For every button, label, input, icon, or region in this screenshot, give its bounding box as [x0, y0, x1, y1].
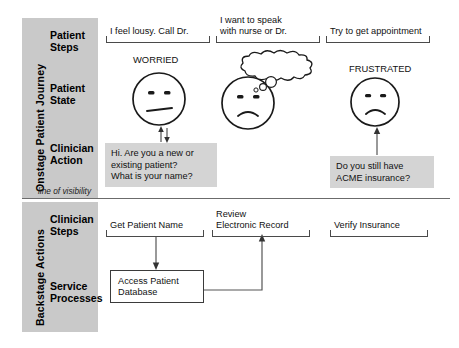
patient-step-label-3: Try to get appointment [330, 26, 422, 37]
row-label-service-processes: Service Processes [50, 281, 103, 304]
patient-step-label-1: I feel lousy. Call Dr. [110, 26, 188, 37]
clinician-step-label-2: Review Electronic Record [216, 209, 289, 230]
patient-step-bracket-2 [216, 36, 320, 43]
row-label-clinician-steps: Clinician Steps [50, 214, 94, 237]
connector-arrow-clinician-patient-3 [374, 127, 380, 155]
clinician-step-bracket-1 [106, 230, 204, 237]
patient-state-caption-frustrated: FRUSTRATED [349, 63, 411, 74]
patient-face-worried-icon [133, 73, 185, 125]
patient-step-label-2: I want to speak with nurse or Dr. [220, 15, 287, 36]
patient-face-frustrated-icon [351, 78, 399, 126]
row-label-patient-state: Patient State [50, 83, 85, 106]
clinician-action-box-1: Hi. Are you a new or existing patient? W… [105, 143, 217, 187]
patient-step-bracket-1 [106, 36, 210, 43]
clinician-step-bracket-2 [212, 230, 310, 237]
patient-face-sad-icon [222, 77, 274, 129]
clinician-action-box-2: Do you still have ACME insurance? [330, 156, 434, 188]
connector-arrow-database-electronic-record [204, 234, 265, 290]
patient-state-caption-worried: WORRIED [133, 54, 178, 65]
swimlane-label-onstage: Onstage Patient Journey [34, 64, 46, 192]
patient-step-bracket-3 [326, 36, 430, 43]
clinician-step-label-1: Get Patient Name [110, 220, 183, 231]
row-label-patient-steps: Patient Steps [50, 30, 85, 53]
service-process-box-access-patient-database: Access Patient Database [110, 270, 204, 303]
line-of-visibility-divider [22, 198, 450, 199]
thought-bubble-icon [241, 51, 312, 93]
swimlane-label-backstage: Backstage Actions [34, 229, 46, 326]
connector-arrow-getname-database [153, 237, 159, 270]
row-label-clinician-action: Clinician Action [50, 143, 94, 166]
clinician-step-bracket-3 [330, 230, 428, 237]
connector-arrow-patient-clinician-1 [158, 126, 170, 143]
line-of-visibility-label: line of visibility [38, 186, 91, 196]
service-blueprint-canvas: Onstage Patient Journey Backstage Action… [0, 0, 459, 348]
clinician-step-label-3: Verify Insurance [334, 220, 400, 231]
